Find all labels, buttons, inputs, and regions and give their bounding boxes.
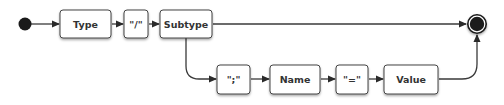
node-label: Type (73, 19, 98, 30)
node-slash: "/" (124, 10, 148, 38)
node-type: Type (60, 10, 111, 38)
railroad-diagram: Type "/" Subtype ";" Name "=" Value (0, 0, 504, 105)
node-label: ";" (227, 74, 241, 85)
start-node (19, 18, 32, 31)
end-node (467, 14, 487, 34)
edge-value-end (439, 35, 477, 79)
node-label: Subtype (164, 19, 208, 30)
node-label: "/" (129, 19, 142, 30)
node-value: Value (384, 65, 438, 94)
edge-subtype-semicolon (186, 38, 216, 79)
node-label: Name (280, 74, 311, 85)
node-semicolon: ";" (217, 65, 250, 94)
node-name: Name (270, 65, 320, 94)
node-subtype: Subtype (160, 10, 212, 38)
node-equals: "=" (336, 65, 368, 94)
node-label: "=" (343, 74, 361, 85)
node-label: Value (396, 74, 426, 85)
